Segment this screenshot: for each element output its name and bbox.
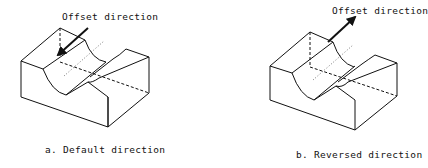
caption-b: b. Reversed direction — [296, 149, 422, 160]
offset-arrow-b — [328, 17, 355, 42]
block-b-hidden-lines — [310, 32, 397, 96]
block-b — [270, 32, 397, 130]
caption-a: a. Default direction — [45, 144, 165, 155]
block-a — [21, 28, 149, 127]
offset-direction-label-a: Offset direction — [62, 11, 158, 22]
block-a-hidden-lines — [60, 28, 149, 93]
offset-direction-label-b: Offset direction — [332, 5, 428, 16]
